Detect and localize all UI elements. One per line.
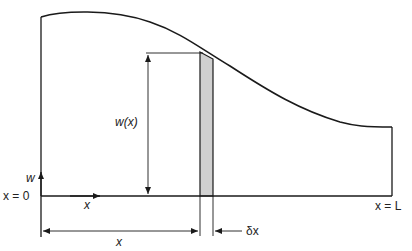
delta-x-label: δx [246, 224, 259, 238]
load-curve [41, 12, 392, 127]
load-diagram: w w(x) x = 0 x = L x x δx [0, 0, 412, 251]
shaded-strip [200, 52, 213, 196]
w-axis-label: w [26, 171, 36, 185]
x-axis-label: x [83, 198, 91, 212]
x-distance-label: x [115, 235, 123, 249]
origin-label: x = 0 [3, 189, 30, 203]
end-label: x = L [375, 199, 402, 213]
w-of-x-label: w(x) [115, 115, 138, 129]
